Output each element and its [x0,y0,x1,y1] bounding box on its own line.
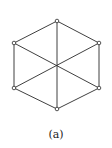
hexagon-graph-diagram [0,0,112,148]
graph-vertex-v-top [55,19,59,23]
graph-edge [57,21,99,43]
graph-vertex-v-bottom [55,107,59,111]
graph-vertex-v-upper-left [12,41,16,45]
graph-vertex-v-lower-left [12,86,16,90]
figure-caption: (a) [0,128,112,141]
graph-edge [57,88,99,109]
graph-vertex-v-upper-right [97,41,101,45]
graph-edge [14,88,57,109]
graph-edge [14,21,57,43]
graph-vertex-v-lower-right [97,86,101,90]
graph-edges [14,21,99,109]
